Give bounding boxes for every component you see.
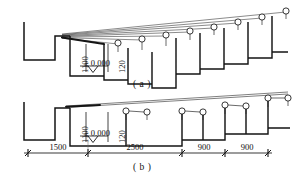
left-foundation-a [24, 22, 70, 60]
datum-label-b: ± 0.000 [84, 128, 110, 138]
sight-line-fan-a [62, 12, 286, 44]
dimension-label-900-second: 900 [229, 142, 265, 152]
step-profile-a [70, 16, 288, 88]
drawing-canvas: 1100 120 ± 0.000 ( a ) 1100 120 ± 0.000 … [0, 0, 302, 185]
figure-caption-b: ( b ) [133, 162, 151, 172]
step-profile-b [70, 100, 290, 146]
top-chord-thick-b [66, 105, 100, 107]
left-foundation-b [24, 102, 70, 140]
dimension-label-2500: 2500 [115, 142, 155, 152]
figure-caption-a: ( a ) [133, 79, 151, 89]
dimension-label-1500: 1500 [38, 142, 78, 152]
figure-a-geometry [0, 0, 302, 185]
dimension-label-900-first: 900 [186, 142, 222, 152]
slab-thickness-label-a: 120 [117, 60, 127, 73]
datum-label-a: ± 0.000 [84, 58, 110, 68]
